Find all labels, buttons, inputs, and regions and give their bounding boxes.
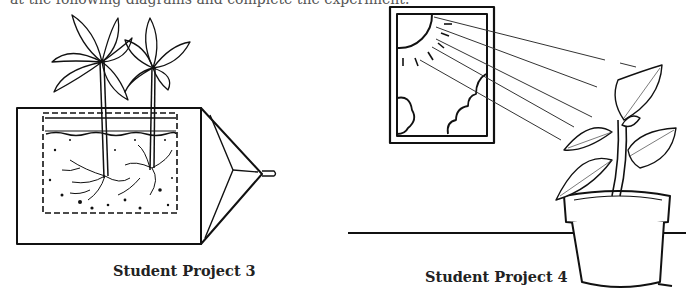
figure-student-project-4: Student Project 4 xyxy=(340,0,697,303)
box-outline xyxy=(17,108,201,244)
figure-student-project-3: Student Project 3 xyxy=(0,0,300,303)
sun-icon xyxy=(397,14,432,48)
window-frame xyxy=(390,7,494,143)
root-box-illustration xyxy=(0,0,300,303)
caption-student-project-3: Student Project 3 xyxy=(113,262,256,279)
pot-body xyxy=(572,222,664,287)
caption-student-project-4: Student Project 4 xyxy=(425,268,568,285)
roots xyxy=(62,145,172,200)
plant-window-illustration xyxy=(340,0,697,303)
